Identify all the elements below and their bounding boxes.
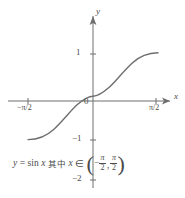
caption-sin: sin bbox=[28, 158, 39, 168]
y-tick-label-neg1: −1 bbox=[72, 134, 82, 143]
caption-chinese-where: 其中 bbox=[48, 157, 66, 169]
fraction-denominator-two: 2 bbox=[100, 164, 106, 172]
caption-equals: = bbox=[20, 158, 25, 168]
sine-function-figure: x y 0 1 −1 −2 −π/2 π/2 y = sin x 其中 x ∈ … bbox=[0, 0, 185, 198]
y-tick-label-1: 1 bbox=[76, 48, 81, 57]
function-caption: y = sin x 其中 x ∈ ( − π 2 , π 2 ) bbox=[13, 146, 183, 180]
origin-label: 0 bbox=[84, 97, 89, 106]
fraction-denominator-two: 2 bbox=[111, 164, 117, 172]
caption-domain-variable: x bbox=[68, 158, 72, 168]
x-axis-label: x bbox=[174, 92, 178, 101]
x-tick-label-pi-over-2: π/2 bbox=[149, 104, 159, 112]
fraction-numerator-pi: π bbox=[111, 154, 117, 162]
x-tick-label-neg-pi-over-2: −π/2 bbox=[17, 104, 32, 112]
caption-y: y bbox=[13, 158, 17, 168]
caption-element-of: ∈ bbox=[75, 158, 84, 169]
fraction-neg-pi-over-2: π 2 bbox=[99, 154, 106, 173]
y-axis-label: y bbox=[96, 7, 100, 16]
fraction-numerator-pi: π bbox=[100, 154, 106, 162]
caption-variable: x bbox=[41, 158, 45, 168]
fraction-pi-over-2: π 2 bbox=[110, 154, 117, 173]
